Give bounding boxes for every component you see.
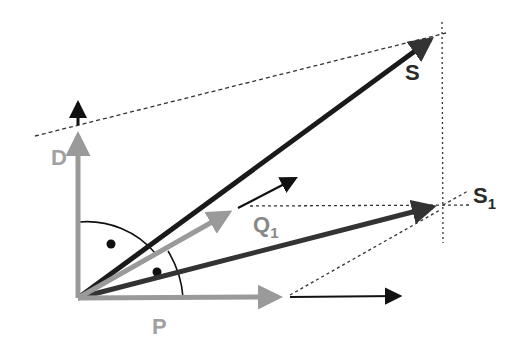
vector-P	[78, 297, 278, 298]
label-S1: S1	[473, 183, 496, 212]
dashed-line-D-to-S	[35, 33, 446, 136]
dashed-line-S1-extension	[443, 191, 468, 205]
label-S: S	[405, 60, 420, 85]
label-D: D	[51, 145, 67, 170]
label-Q1: Q1	[253, 212, 278, 241]
P-extension-arrow	[290, 296, 398, 297]
label-P: P	[152, 314, 167, 339]
dotted-vertical-line	[442, 22, 443, 243]
vector-S	[78, 40, 430, 298]
dotted-line-Q1-to-S1	[250, 205, 470, 206]
angle-dot-1	[107, 240, 116, 249]
Q1-extension-arrow	[238, 179, 294, 208]
vector-Q1	[78, 213, 228, 298]
vector-diagram: S S1 Q1 D P	[0, 0, 528, 357]
